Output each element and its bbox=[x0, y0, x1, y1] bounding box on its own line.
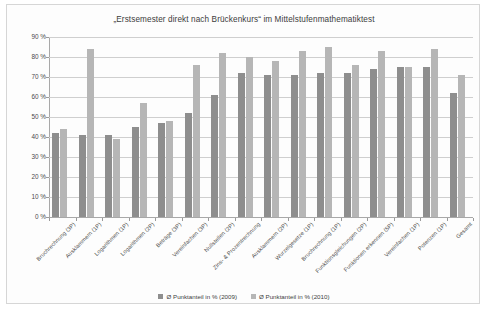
bar-group bbox=[420, 37, 447, 217]
bar bbox=[52, 133, 59, 217]
chart-title: „Erstsemester direkt nach Brückenkurs“ i… bbox=[7, 15, 481, 24]
bar bbox=[352, 65, 359, 217]
x-axis-labels: Bruchrechnung (3P)Ausklammern (1P)Logari… bbox=[49, 221, 479, 287]
bar-group bbox=[314, 37, 341, 217]
plot-area bbox=[49, 37, 473, 217]
bar bbox=[450, 93, 457, 217]
bar bbox=[344, 73, 351, 217]
bar-group bbox=[288, 37, 315, 217]
bar bbox=[246, 57, 253, 217]
bar bbox=[219, 53, 226, 217]
bar bbox=[113, 139, 120, 217]
bar bbox=[317, 73, 324, 217]
bar bbox=[458, 75, 465, 217]
bar bbox=[185, 113, 192, 217]
bar bbox=[140, 103, 147, 217]
bar-group bbox=[49, 37, 76, 217]
x-axis-tick-label: Funktionen erkennen (5P) bbox=[342, 221, 394, 273]
bar-group bbox=[155, 37, 182, 217]
bar bbox=[397, 67, 404, 217]
bar-group bbox=[129, 37, 156, 217]
bar-group bbox=[261, 37, 288, 217]
bar bbox=[105, 135, 112, 217]
y-axis-tick-marks bbox=[7, 37, 51, 218]
bar-group bbox=[394, 37, 421, 217]
legend-label: Ø Punktanteil in % (2010) bbox=[259, 293, 330, 300]
bar bbox=[264, 75, 271, 217]
bar bbox=[378, 51, 385, 217]
x-axis-tick-label: Gesamt bbox=[455, 221, 474, 240]
bar bbox=[166, 121, 173, 217]
bar bbox=[193, 65, 200, 217]
bar-group bbox=[208, 37, 235, 217]
legend-item[interactable]: Ø Punktanteil in % (2010) bbox=[251, 293, 330, 300]
legend-item[interactable]: Ø Punktanteil in % (2009) bbox=[158, 293, 237, 300]
chart-legend: Ø Punktanteil in % (2009)Ø Punktanteil i… bbox=[7, 293, 481, 300]
bar bbox=[238, 73, 245, 217]
bar bbox=[132, 127, 139, 217]
legend-label: Ø Punktanteil in % (2009) bbox=[166, 293, 237, 300]
bar-group bbox=[341, 37, 368, 217]
bar bbox=[370, 69, 377, 217]
x-axis-tick-label: Zins- & Prozentrechnung bbox=[212, 221, 262, 271]
x-axis-tick-label: Funktionsgleichungen (2P) bbox=[314, 221, 367, 274]
chart-container: „Erstsemester direkt nach Brückenkurs“ i… bbox=[6, 4, 480, 304]
bar bbox=[79, 135, 86, 217]
bar-group bbox=[102, 37, 129, 217]
bar bbox=[299, 51, 306, 217]
legend-swatch-icon bbox=[158, 294, 163, 299]
bar bbox=[325, 47, 332, 217]
bar-group bbox=[182, 37, 209, 217]
bar bbox=[431, 49, 438, 217]
bar bbox=[423, 67, 430, 217]
x-axis-tick-label: Potenzen (1P) bbox=[416, 221, 446, 251]
legend-swatch-icon bbox=[251, 294, 256, 299]
bar bbox=[405, 67, 412, 217]
bar-group bbox=[447, 37, 474, 217]
bar bbox=[291, 75, 298, 217]
bar-group bbox=[235, 37, 262, 217]
bar bbox=[87, 49, 94, 217]
bar bbox=[272, 61, 279, 217]
x-axis-tick-label: Beträge (3P) bbox=[154, 221, 182, 249]
bar bbox=[158, 123, 165, 217]
bar bbox=[60, 129, 67, 217]
bar-group bbox=[76, 37, 103, 217]
bar-group bbox=[367, 37, 394, 217]
bar bbox=[211, 95, 218, 217]
